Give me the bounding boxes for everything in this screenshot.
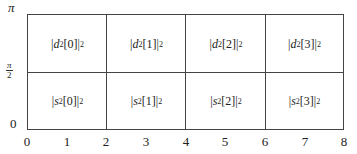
x-tick-7: 7: [295, 134, 315, 150]
y-tick-zero: 0: [10, 116, 17, 132]
x-tick-4: 4: [176, 134, 196, 150]
cell-d2-2: |d2[2]|2: [186, 15, 266, 73]
tiling-grid: |d2[0]|2 |d2[1]|2 |d2[2]|2 |d2[3]|2 |s2[…: [27, 14, 344, 130]
x-tick-2: 2: [96, 134, 116, 150]
x-tick-0: 0: [17, 134, 37, 150]
cell-d2-1: |d2[1]|2: [107, 15, 186, 73]
frac-denominator: 2: [6, 71, 13, 80]
y-tick-pi: π: [8, 0, 15, 16]
cell-s2-1: |s2[1]|2: [107, 73, 186, 129]
cell-s2-0: |s2[0]|2: [28, 73, 107, 129]
cell-s2-3: |s2[3]|2: [266, 73, 343, 129]
x-tick-5: 5: [215, 134, 235, 150]
cell-d2-0: |d2[0]|2: [28, 15, 107, 73]
x-tick-8: 8: [334, 134, 354, 150]
x-tick-6: 6: [255, 134, 275, 150]
x-tick-1: 1: [57, 134, 77, 150]
x-tick-3: 3: [136, 134, 156, 150]
cell-d2-3: |d2[3]|2: [266, 15, 343, 73]
y-tick-half-pi: π 2: [6, 61, 13, 80]
cell-s2-2: |s2[2]|2: [186, 73, 266, 129]
